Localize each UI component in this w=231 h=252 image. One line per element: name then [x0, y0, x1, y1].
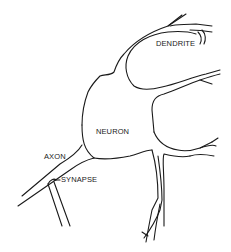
dendrite-branch-top-inner2	[190, 30, 212, 32]
dendrite-lower-outer	[144, 156, 162, 238]
neuron-drawing	[0, 0, 231, 252]
cell-body-bottom	[94, 150, 152, 159]
axon-hillock	[82, 125, 94, 158]
synapse-process-right	[54, 182, 70, 226]
dendrite-right-low-lower	[190, 155, 214, 157]
cell-body-left-outline	[82, 15, 182, 125]
cell-body-right-outline	[154, 132, 212, 151]
label-synapse: SYNAPSE	[61, 176, 97, 184]
label-dendrite: DENDRITE	[156, 40, 195, 48]
dendrite-tip-hook-1	[198, 32, 201, 44]
dendrite-right-low-fork-2	[212, 138, 218, 142]
label-neuron: NEURON	[96, 128, 129, 136]
dendrite-tip-hook-2	[202, 30, 205, 44]
dendrite-right-mid-lower	[200, 74, 220, 84]
dendrite-right-low-underside	[163, 154, 190, 226]
synapse-process-left	[48, 184, 62, 226]
dendrite-branch-top-inner	[170, 24, 212, 26]
label-axon: AXON	[44, 153, 66, 161]
neuron-diagram: DENDRITE NEURON AXON SYNAPSE	[0, 0, 231, 252]
